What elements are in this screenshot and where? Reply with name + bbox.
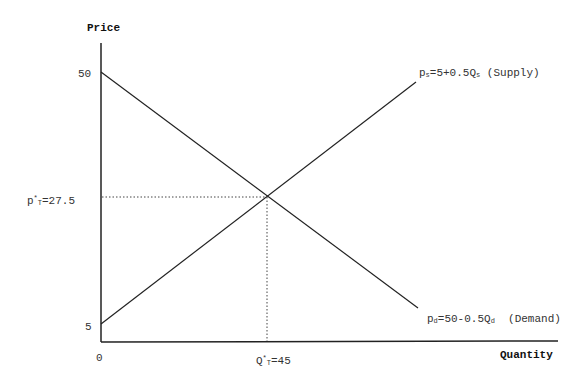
x-axis <box>101 341 558 342</box>
y-tick-5: 5 <box>85 321 92 333</box>
supply-equation-label: ps=5+0.5Qs (Supply) <box>419 67 540 81</box>
supply-curve <box>101 82 416 324</box>
y-axis-label: Price <box>87 22 120 34</box>
y-tick-50: 50 <box>78 68 91 80</box>
equilibrium-quantity-label: Q*T=45 <box>256 352 291 369</box>
origin-label: 0 <box>96 352 103 364</box>
equilibrium-price-label: p*T=27.5 <box>27 192 75 209</box>
demand-equation-label: pd=50-0.5Qd (Demand) <box>427 313 561 327</box>
demand-curve <box>101 72 418 308</box>
x-axis-label: Quantity <box>500 349 553 361</box>
